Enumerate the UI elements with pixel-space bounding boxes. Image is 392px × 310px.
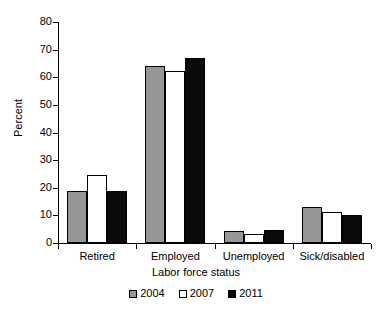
bar (107, 191, 127, 243)
bar (322, 212, 342, 243)
y-axis-title: Percent (12, 78, 24, 158)
y-tick-label: 70 (28, 44, 52, 55)
plot-area (58, 22, 371, 243)
bar-group (67, 22, 127, 243)
y-tick-label: 60 (28, 71, 52, 82)
x-axis-title: Labor force status (0, 266, 392, 278)
legend-item: 2007 (179, 288, 214, 299)
legend-swatch-2007-icon (179, 290, 187, 298)
bar (165, 71, 185, 243)
bar (244, 234, 264, 243)
legend-label: 2004 (140, 288, 164, 299)
legend-label: 2011 (239, 288, 263, 299)
bar (87, 175, 107, 243)
y-tick-label: 20 (28, 182, 52, 193)
x-separator-mark (58, 244, 59, 249)
x-separator-mark (136, 244, 137, 249)
bar (224, 231, 244, 243)
legend-swatch-2011-icon (228, 290, 236, 298)
legend-label: 2007 (190, 288, 214, 299)
bar (264, 230, 284, 243)
bar (67, 191, 87, 243)
bar (185, 58, 205, 243)
y-tick-label: 30 (28, 154, 52, 165)
legend-item: 2004 (129, 288, 164, 299)
x-separator-mark (215, 244, 216, 249)
x-separator-mark (293, 244, 294, 249)
bar-chart: Percent 01020304050607080 RetiredEmploye… (0, 0, 392, 310)
bar (342, 215, 362, 243)
y-tick-label: 80 (28, 16, 52, 27)
y-tick-label: 40 (28, 127, 52, 138)
bar-group (302, 22, 362, 243)
bar-group (224, 22, 284, 243)
legend-swatch-2004-icon (129, 290, 137, 298)
x-tick-label: Sick/disabled (272, 250, 392, 262)
chart-legend: 200420072011 (0, 288, 392, 299)
y-tick-label: 50 (28, 99, 52, 110)
x-separator-mark (371, 244, 372, 249)
legend-item: 2011 (228, 288, 263, 299)
bar (145, 66, 165, 243)
y-tick-label: 10 (28, 209, 52, 220)
bar (302, 207, 322, 243)
bar-group (145, 22, 205, 243)
y-tick-label: 0 (28, 237, 52, 248)
